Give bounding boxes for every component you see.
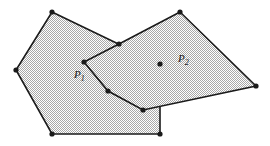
polygon-label-subscript-p2: 2 [185,58,189,67]
vertex-marker-p2-2 [140,107,145,112]
vertex-marker-p1-3 [49,131,54,136]
vertex-marker-p2-0 [177,9,182,14]
vertex-marker-p2-4 [81,59,86,64]
vertex-marker-p1-2 [157,131,162,136]
vertex-marker-p1-0 [49,9,54,14]
figure-root: P1P2 [0,0,270,146]
vertex-marker-p1-1 [157,61,162,66]
vertex-marker-p1-4 [13,67,18,72]
vertex-marker-p2-3 [105,88,110,93]
vertex-marker-p2-5 [116,41,121,46]
vertex-marker-p2-1 [253,83,258,88]
polygon-canvas: P1P2 [0,0,270,146]
polygon-label-subscript-p1: 1 [81,74,85,83]
shape-layer [16,12,256,134]
